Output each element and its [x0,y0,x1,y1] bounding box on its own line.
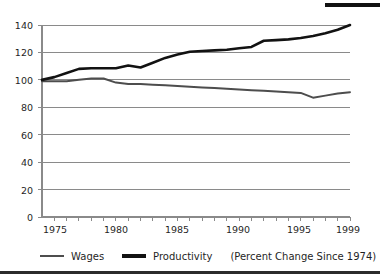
chart-legend: Wages Productivity (Percent Change Since… [40,247,380,265]
y-tick-label-140: 140 [5,20,33,31]
chart-x-tickmarks [54,217,350,221]
legend-entry-productivity: Productivity [122,251,212,262]
legend-entry-wages: Wages [40,251,104,262]
legend-label-wages: Wages [71,251,104,262]
legend-note: (Percent Change Since 1974) [230,251,376,262]
chart-series-layer [42,25,350,98]
y-tick-label-20: 20 [5,185,33,196]
y-tick-label-40: 40 [5,157,33,168]
legend-swatch-wages-icon [40,255,64,258]
bottom-decorative-rule [0,271,380,274]
y-tick-label-100: 100 [5,75,33,86]
chart-axis-lines [42,25,350,217]
x-tick-label-1980: 1980 [96,224,136,235]
x-tick-label-1999: 1999 [328,224,368,235]
y-tick-label-80: 80 [5,102,33,113]
chart-series-wages [42,78,350,97]
y-tick-label-120: 120 [5,47,33,58]
legend-swatch-productivity-icon [122,254,146,258]
chart-figure: 140 120 100 80 60 40 20 0 1975 1980 1985… [0,0,380,278]
y-tick-label-0: 0 [5,212,33,223]
x-tick-label-1990: 1990 [218,224,258,235]
chart-gridlines [42,25,350,190]
x-tick-label-1995: 1995 [279,224,319,235]
x-tick-label-1985: 1985 [157,224,197,235]
legend-label-productivity: Productivity [153,251,212,262]
x-tick-label-1975: 1975 [35,224,75,235]
y-tick-label-60: 60 [5,130,33,141]
chart-plot-area [0,0,380,278]
